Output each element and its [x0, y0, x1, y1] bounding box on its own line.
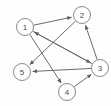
diagram-canvas: 12345	[0, 0, 111, 106]
edge-layer	[30, 17, 97, 87]
node-label-2: 2	[80, 11, 85, 20]
node-layer: 12345	[14, 7, 109, 101]
graph-node-3[interactable]: 3	[92, 60, 109, 77]
graph-node-5[interactable]: 5	[14, 64, 31, 81]
graph-node-4[interactable]: 4	[59, 84, 76, 101]
graph-node-1[interactable]: 1	[17, 19, 34, 36]
graph-edge-3-to-1	[34, 32, 92, 64]
node-label-5: 5	[20, 68, 25, 77]
graph-node-2[interactable]: 2	[74, 7, 91, 24]
graph-edge-3-to-5	[33, 68, 91, 71]
graph-edge-1-to-2	[34, 17, 72, 25]
graph-edge-2-to-5	[30, 21, 76, 64]
node-label-3: 3	[98, 64, 103, 73]
node-label-1: 1	[23, 23, 28, 32]
graph-edge-3-to-2	[85, 25, 97, 59]
graph-edge-4-to-3	[74, 74, 91, 86]
directed-graph: 12345	[0, 0, 111, 106]
node-label-4: 4	[65, 88, 70, 97]
graph-edge-1-to-4	[30, 35, 61, 83]
